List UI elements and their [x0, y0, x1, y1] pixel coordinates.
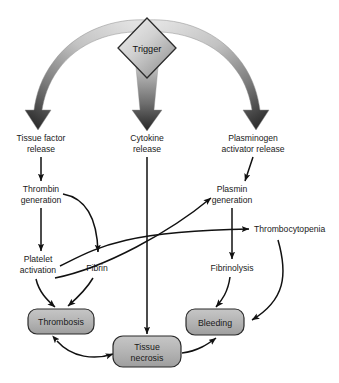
box-tissue-necrosis: Tissue necrosis	[113, 336, 181, 367]
node-plasmin-generation: Plasmin generation	[212, 184, 253, 205]
platelet-activation-line2: activation	[20, 265, 57, 275]
cytokine-release-line1: Cytokine	[130, 133, 164, 143]
plasmin-generation-line2: generation	[212, 195, 253, 205]
thrombosis-label: Thrombosis	[38, 317, 85, 327]
platelet-activation-line1: Platelet	[24, 254, 53, 264]
edge-fibrinolysis-to-bleeding	[216, 277, 230, 307]
tissue-necrosis-line2: necrosis	[131, 353, 164, 363]
cytokine-release-line2: release	[133, 144, 161, 154]
box-bleeding: Bleeding	[186, 309, 244, 335]
thrombocytopenia-label: Thrombocytopenia	[254, 224, 325, 234]
trigger-label: Trigger	[133, 44, 162, 54]
fibrinolysis-label: Fibrinolysis	[211, 263, 254, 273]
node-platelet-activation: Platelet activation	[20, 254, 57, 275]
node-thrombocytopenia: Thrombocytopenia	[254, 224, 325, 234]
thrombin-generation-line2: generation	[21, 195, 62, 205]
thrombin-generation-line1: Thrombin	[23, 184, 60, 194]
flow-diagram: Trigger Tissue factor release Cytokine r…	[0, 0, 339, 383]
edge-thrombocytopenia-to-bleeding	[252, 240, 283, 320]
tissue-factor-release-line1: Tissue factor	[17, 133, 66, 143]
node-thrombin-generation: Thrombin generation	[21, 184, 62, 205]
edge-cross-to-thrombocytopenia	[60, 229, 249, 266]
node-plasminogen-activator-release: Plasminogen activator release	[221, 133, 284, 154]
node-fibrinolysis: Fibrinolysis	[211, 263, 254, 273]
box-thrombosis: Thrombosis	[28, 309, 94, 334]
edge-thrombin-to-fibrin	[63, 194, 98, 252]
edge-tissue-necrosis-to-bleeding	[182, 338, 216, 353]
edge-fibrin-to-thrombosis	[68, 278, 93, 306]
plasminogen-activator-release-line2: activator release	[221, 144, 284, 154]
bleeding-label: Bleeding	[198, 318, 232, 328]
tissue-necrosis-line1: Tissue	[134, 342, 160, 352]
edge-platelet-to-thrombosis	[36, 279, 55, 307]
flow-diagram-canvas: Trigger Tissue factor release Cytokine r…	[0, 0, 339, 383]
plasmin-generation-line1: Plasmin	[217, 184, 248, 194]
node-tissue-factor-release: Tissue factor release	[17, 133, 66, 154]
tissue-factor-release-line2: release	[27, 144, 55, 154]
edge-thrombosis-tissue-necrosis	[57, 341, 113, 357]
edge-plasminogen-to-plasmin	[245, 157, 253, 181]
node-cytokine-release: Cytokine release	[130, 133, 164, 154]
plasminogen-activator-release-line1: Plasminogen	[228, 133, 278, 143]
